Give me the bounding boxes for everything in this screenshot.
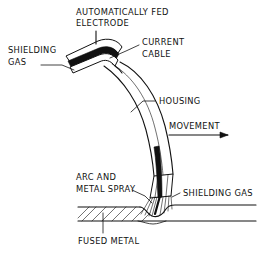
workpiece-plate [78, 205, 256, 224]
leader-shielding-gas-top [41, 65, 74, 70]
movement-arrow-head [220, 132, 228, 138]
leader-lines [41, 45, 180, 233]
label-electrode-line1: AUTOMATICALLY FED [76, 7, 169, 17]
torch-housing [104, 62, 173, 176]
label-current-cable-line2: CABLE [142, 49, 171, 59]
label-electrode-line2: ELECTRODE [76, 18, 129, 28]
welding-torch-figure: AUTOMATICALLY FED ELECTRODE SHIELDING GA… [0, 0, 259, 254]
label-current-cable-line1: CURRENT [142, 37, 185, 47]
label-arc-metal-spray-line2: METAL SPRAY [76, 184, 136, 194]
label-shielding-gas-top-line1: SHIELDING [8, 45, 56, 55]
label-shielding-gas-top-line2: GAS [8, 57, 26, 67]
torch-nozzle [150, 146, 173, 214]
label-housing: HOUSING [159, 96, 201, 106]
inlet-to-housing-link [115, 66, 122, 73]
fused-metal-hatching [78, 207, 150, 221]
label-shielding-gas-right: SHIELDING GAS [183, 188, 253, 198]
leader-shielding-gas-right [172, 193, 180, 197]
housing-outer-edge [120, 62, 173, 174]
label-arc-metal-spray-line1: ARC AND [76, 172, 116, 182]
movement-arrow [169, 132, 228, 138]
leader-housing [131, 101, 155, 112]
electrode-stickout [155, 196, 160, 214]
welding-diagram-page: AUTOMATICALLY FED ELECTRODE SHIELDING GA… [0, 0, 259, 254]
housing-inner-edge [104, 66, 154, 176]
torch-inlet-assembly [66, 31, 122, 73]
label-fused-metal: FUSED METAL [78, 236, 139, 246]
label-movement: MOVEMENT [169, 121, 221, 131]
